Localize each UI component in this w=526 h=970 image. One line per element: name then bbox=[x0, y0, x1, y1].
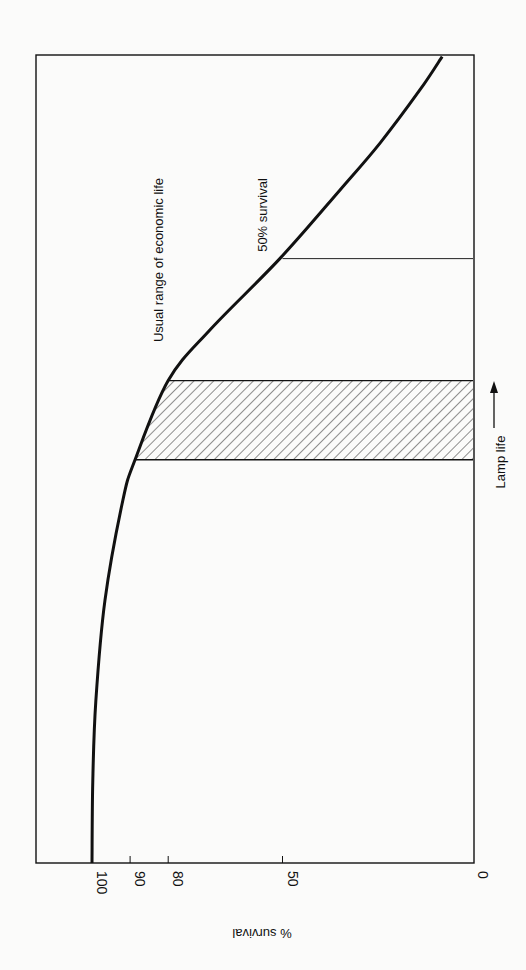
y-tick-label-80: 80 bbox=[170, 871, 186, 887]
economic-life-band bbox=[135, 381, 473, 460]
arrow-up-icon bbox=[490, 381, 498, 393]
y-tick-label-90: 90 bbox=[132, 871, 148, 887]
annotation-fifty-survival: 50% survival bbox=[255, 178, 270, 252]
y-tick-label-0: 0 bbox=[475, 871, 491, 879]
y-tick-label-100: 100 bbox=[94, 871, 110, 895]
survival-chart: 1009080500 Usual range of economic life … bbox=[0, 0, 526, 970]
y-axis-label: % survival bbox=[232, 926, 291, 941]
x-axis-arrow bbox=[490, 381, 498, 428]
annotation-economic-life: Usual range of economic life bbox=[151, 178, 166, 342]
x-axis-label: Lamp life bbox=[493, 436, 508, 489]
y-tick-label-50: 50 bbox=[285, 871, 301, 887]
